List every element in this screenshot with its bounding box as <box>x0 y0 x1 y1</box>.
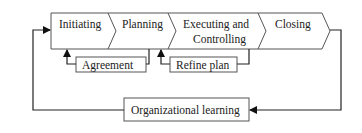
connector-agreement-to-initiating <box>67 50 76 64</box>
phase-executing-line2: Controlling <box>193 33 246 46</box>
process-diagram: Initiating Planning Executing and Contro… <box>0 0 362 133</box>
phase-closing: Closing <box>275 18 311 31</box>
connector-refine-plan-to-planning <box>161 50 170 64</box>
organizational-learning-label: Organizational learning <box>131 104 240 117</box>
phase-planning: Planning <box>122 18 163 31</box>
connector-executing-to-refine-plan <box>237 49 249 64</box>
phase-executing-line1: Executing and <box>183 18 249 31</box>
agreement-label: Agreement <box>82 59 134 72</box>
refine-plan-label: Refine plan <box>176 59 230 72</box>
phase-initiating: Initiating <box>59 18 101 31</box>
